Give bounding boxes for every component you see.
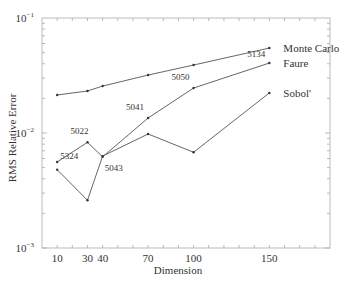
x-tick-label: 40 — [97, 252, 109, 264]
chart: 1030407010015010−110−210−3DimensionRMS R… — [0, 0, 343, 282]
series-label: Monte Carlo — [283, 42, 339, 54]
point-annotation: 5043 — [105, 163, 124, 173]
point-annotation: 5041 — [126, 102, 144, 112]
y-tick-label: 10−3 — [16, 241, 35, 254]
point-annotation: 5134 — [247, 49, 266, 59]
y-tick-label: 10−1 — [16, 11, 35, 24]
series-lines — [56, 47, 271, 202]
series-line — [57, 63, 269, 162]
point-annotation: 5022 — [70, 126, 88, 136]
x-tick-label: 150 — [261, 252, 278, 264]
x-tick-label: 100 — [185, 252, 202, 264]
x-tick-label: 30 — [82, 252, 94, 264]
series-label: Sobol' — [283, 87, 311, 99]
series-line — [57, 48, 269, 95]
point-annotation: 5324 — [60, 151, 79, 161]
x-tick-label: 10 — [52, 252, 64, 264]
y-axis-title: RMS Relative Error — [6, 93, 18, 182]
x-tick-label: 70 — [143, 252, 155, 264]
point-annotation: 5050 — [172, 72, 191, 82]
x-axis-title: Dimension — [154, 264, 203, 276]
y-tick-label: 10−2 — [16, 126, 35, 139]
series-label: Faure — [283, 57, 308, 69]
series-line — [57, 93, 269, 200]
